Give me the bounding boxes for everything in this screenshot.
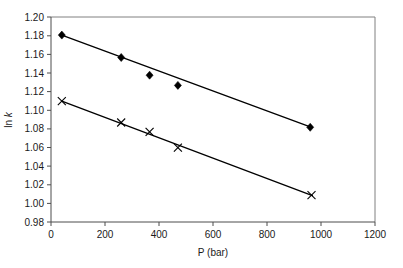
data-point-marker bbox=[118, 54, 125, 62]
x-axis-title: P (bar) bbox=[198, 247, 228, 258]
scatter-plot: 0.98 1.00 1.02 1.04 1.06 1.08 1.10 1.12 … bbox=[0, 0, 403, 268]
y-tick-label: 1.00 bbox=[25, 198, 45, 209]
upper-series-trendline bbox=[62, 35, 312, 127]
x-axis-ticks bbox=[51, 222, 375, 226]
y-tick-label: 1.18 bbox=[25, 30, 45, 41]
y-tick-label: 0.98 bbox=[25, 217, 45, 228]
y-axis-title-symbol: k bbox=[3, 111, 14, 117]
chart-container: 0.98 1.00 1.02 1.04 1.06 1.08 1.10 1.12 … bbox=[0, 0, 403, 268]
svg-text:ln k: ln k bbox=[3, 111, 14, 128]
y-axis-title: ln k bbox=[3, 111, 14, 128]
x-tick-label: 600 bbox=[205, 229, 222, 240]
plot-frame-border bbox=[51, 17, 375, 222]
y-tick-label: 1.02 bbox=[25, 179, 45, 190]
data-point-marker bbox=[58, 31, 65, 39]
y-tick-label: 1.16 bbox=[25, 49, 45, 60]
data-point-marker bbox=[308, 191, 316, 199]
y-tick-label: 1.14 bbox=[25, 68, 45, 79]
y-tick-label: 1.10 bbox=[25, 105, 45, 116]
data-point-marker bbox=[58, 97, 66, 105]
x-tick-label: 0 bbox=[48, 229, 54, 240]
y-axis-title-prefix: ln bbox=[3, 117, 14, 128]
y-tick-label: 1.04 bbox=[25, 161, 45, 172]
data-point-marker bbox=[307, 123, 314, 131]
y-tick-label: 1.12 bbox=[25, 86, 45, 97]
data-point-marker bbox=[146, 71, 153, 79]
data-point-marker bbox=[174, 81, 181, 89]
y-tick-label: 1.20 bbox=[25, 12, 45, 23]
y-axis-ticks bbox=[47, 17, 51, 222]
lower-series-trendline bbox=[62, 101, 313, 196]
y-tick-label: 1.06 bbox=[25, 142, 45, 153]
x-tick-label: 800 bbox=[259, 229, 276, 240]
y-tick-label: 1.08 bbox=[25, 123, 45, 134]
x-tick-label: 1000 bbox=[310, 229, 333, 240]
x-axis-tick-labels: 0 200 400 600 800 1000 1200 bbox=[48, 229, 386, 240]
y-axis-tick-labels: 0.98 1.00 1.02 1.04 1.06 1.08 1.10 1.12 … bbox=[25, 12, 45, 228]
x-tick-label: 1200 bbox=[364, 229, 387, 240]
x-tick-label: 400 bbox=[151, 229, 168, 240]
x-tick-label: 200 bbox=[97, 229, 114, 240]
